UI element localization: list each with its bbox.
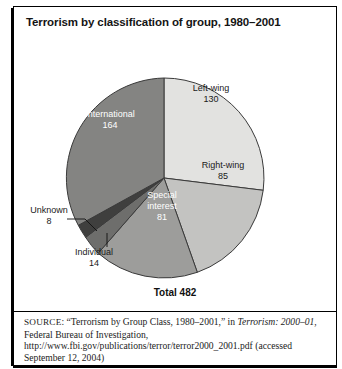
pie-label-international: International 164 — [67, 109, 153, 131]
frame-shadow-bottom — [13, 366, 337, 368]
pie-label-special-interest-name-2: interest — [132, 201, 192, 212]
pie-label-special-interest-value: 81 — [132, 212, 192, 223]
pie-label-left-wing: Left-wing 130 — [173, 83, 249, 105]
pie-label-right-wing-name: Right-wing — [185, 160, 261, 171]
pie-label-special-interest-name-1: Special — [132, 190, 192, 201]
pie-label-special-interest: Special interest 81 — [132, 190, 192, 223]
pie-label-individual-value: 14 — [61, 258, 127, 269]
source-divider — [14, 311, 336, 312]
pie-label-international-name: International — [67, 109, 153, 120]
pie-label-international-value: 164 — [67, 120, 153, 131]
source-label: SOURCE — [24, 317, 61, 327]
pie-label-left-wing-name: Left-wing — [173, 83, 249, 94]
source-note: SOURCE: “Terrorism by Group Class, 1980–… — [24, 316, 324, 363]
pie-label-individual-name: Individual — [61, 247, 127, 258]
pie-label-unknown-value: 8 — [18, 216, 80, 227]
pie-label-left-wing-value: 130 — [173, 94, 249, 105]
pie-label-individual: Individual 14 — [61, 247, 127, 269]
source-publication-title: Terrorism: 2000–01 — [237, 316, 314, 327]
source-text-part1: “Terrorism by Group Class, 1980–2001,” i… — [67, 316, 238, 327]
figure-container: Terrorism by classification of group, 19… — [0, 0, 342, 369]
pie-chart: International 164 Left-wing 130 Right-wi… — [13, 35, 337, 307]
pie-total-label: Total 482 — [13, 287, 337, 298]
pie-label-right-wing: Right-wing 85 — [185, 160, 261, 182]
pie-label-unknown-name: Unknown — [18, 205, 80, 216]
pie-label-unknown: Unknown 8 — [18, 205, 80, 227]
pie-label-right-wing-value: 85 — [185, 171, 261, 182]
figure-title: Terrorism by classification of group, 19… — [26, 16, 281, 28]
